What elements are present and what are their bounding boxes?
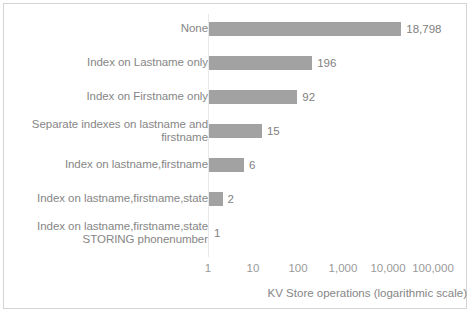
bar	[209, 56, 312, 70]
bar-value-label: 15	[267, 124, 280, 138]
bar-chart: Indexing NoneIndex on Lastname onlyIndex…	[0, 0, 473, 315]
x-tick-label: 1,000	[329, 262, 358, 275]
category-label: Index on lastname,firstname,stateSTORING…	[12, 220, 208, 247]
category-label-line: Index on lastname,firstname,state	[12, 220, 208, 234]
category-label-line: firstname	[12, 131, 208, 145]
category-label-line: Index on lastname,firstname	[12, 158, 208, 172]
category-label: None	[12, 22, 208, 36]
x-tick-label: 1	[205, 262, 211, 275]
category-label-line: STORING phonenumber	[12, 233, 208, 247]
category-label-line: Index on Firstname only	[12, 90, 208, 104]
bar-value-label: 196	[317, 56, 336, 70]
category-label-line: None	[12, 22, 208, 36]
plot-area: 18,79819692156211101001,00010,000100,000	[208, 0, 466, 315]
bar	[209, 158, 244, 172]
category-label: Index on Lastname only	[12, 56, 208, 70]
bar	[209, 22, 401, 36]
bar-value-label: 92	[302, 90, 315, 104]
bar-value-label: 6	[249, 158, 255, 172]
category-label-line: Index on lastname,firstname,state	[12, 192, 208, 206]
x-tick-label: 10,000	[370, 262, 405, 275]
category-label-line: Index on Lastname only	[12, 56, 208, 70]
x-tick-label: 100,000	[412, 262, 454, 275]
bar	[209, 192, 223, 206]
x-tick-label: 100	[288, 262, 307, 275]
category-axis-labels: NoneIndex on Lastname onlyIndex on First…	[12, 0, 208, 315]
bar	[209, 90, 297, 104]
category-label: Index on Firstname only	[12, 90, 208, 104]
category-label-line: Separate indexes on lastname and	[12, 118, 208, 132]
bar-value-label: 2	[228, 192, 234, 206]
category-label: Index on lastname,firstname	[12, 158, 208, 172]
bar-value-label: 1	[214, 226, 220, 240]
category-label: Index on lastname,firstname,state	[12, 192, 208, 206]
x-axis-title: KV Store operations (logarithmic scale)	[268, 287, 467, 299]
category-label: Separate indexes on lastname andfirstnam…	[12, 118, 208, 145]
bar	[209, 124, 262, 138]
bar-value-label: 18,798	[406, 22, 441, 36]
x-tick-label: 10	[247, 262, 260, 275]
